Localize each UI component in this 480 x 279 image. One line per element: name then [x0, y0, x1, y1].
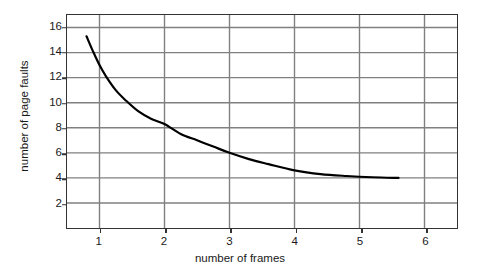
x-tick-label: 3 [214, 236, 244, 248]
x-tick-label: 6 [410, 236, 440, 248]
y-tick-label: 10 [36, 97, 62, 109]
x-tick-mark [100, 228, 102, 233]
x-tick-label: 2 [149, 236, 179, 248]
x-tick-label: 1 [84, 236, 114, 248]
y-tick-label: 8 [36, 122, 62, 134]
y-tick-label: 2 [36, 198, 62, 210]
x-tick-mark [230, 228, 232, 233]
y-tick-mark [62, 128, 67, 130]
series-line-page-faults [87, 36, 399, 178]
y-tick-label: 14 [36, 46, 62, 58]
y-tick-label: 12 [36, 71, 62, 83]
y-tick-mark [62, 204, 67, 206]
x-tick-label: 5 [345, 236, 375, 248]
x-axis-title: number of frames [0, 252, 480, 264]
plot-area [66, 14, 458, 229]
x-axis-tick-labels: 123456 [0, 236, 480, 252]
x-tick-label: 4 [280, 236, 310, 248]
y-tick-mark [62, 27, 67, 29]
x-tick-mark [426, 228, 428, 233]
x-tick-mark [165, 228, 167, 233]
x-tick-mark [296, 228, 298, 233]
x-tick-mark [361, 228, 363, 233]
y-tick-label: 6 [36, 147, 62, 159]
y-tick-mark [62, 77, 67, 79]
y-tick-mark [62, 153, 67, 155]
chart-figure: 246810121416 123456 number of page fault… [0, 0, 480, 279]
y-tick-label: 4 [36, 173, 62, 185]
y-tick-mark [62, 103, 67, 105]
y-tick-mark [62, 52, 67, 54]
y-tick-mark [62, 179, 67, 181]
y-tick-label: 16 [36, 21, 62, 33]
y-axis-title: number of page faults [18, 26, 30, 206]
page-fault-curve [67, 15, 457, 228]
